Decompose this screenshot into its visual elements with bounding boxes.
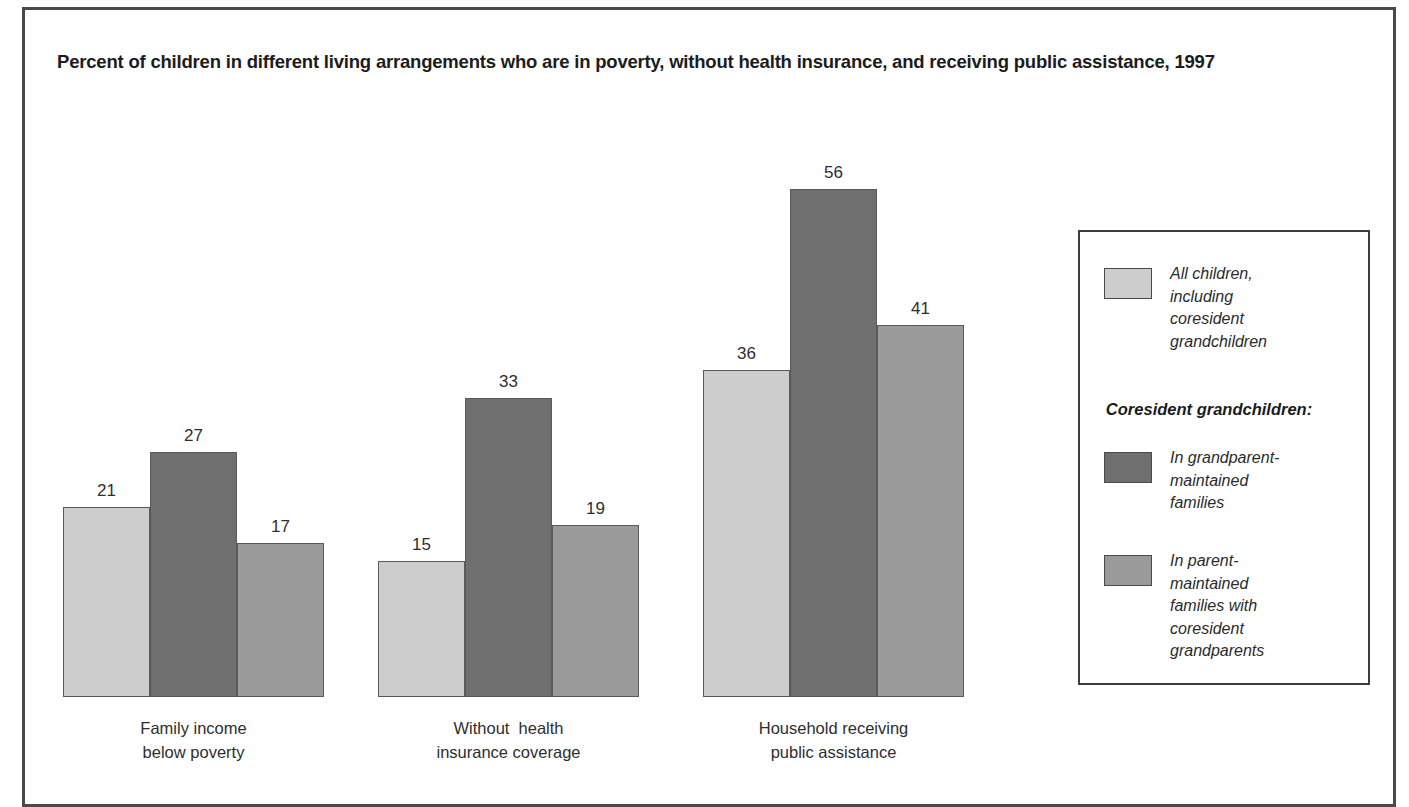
bar-value-label: 36 bbox=[703, 344, 790, 364]
legend-swatch bbox=[1104, 452, 1152, 483]
legend-swatch bbox=[1104, 268, 1152, 299]
chart-legend: Coresident grandchildren: All children, … bbox=[1078, 230, 1370, 685]
bar bbox=[703, 370, 790, 697]
bar-group: 365641Household receiving public assista… bbox=[0, 0, 1060, 772]
legend-subheading: Coresident grandchildren: bbox=[1094, 398, 1324, 421]
bar bbox=[877, 325, 964, 697]
bar-value-label: 41 bbox=[877, 299, 964, 319]
category-label: Household receiving public assistance bbox=[703, 716, 964, 764]
legend-swatch bbox=[1104, 555, 1152, 586]
bar-value-label: 56 bbox=[790, 163, 877, 183]
legend-label: All children, including coresident grand… bbox=[1170, 263, 1350, 353]
legend-label: In parent- maintained families with core… bbox=[1170, 550, 1350, 663]
legend-label: In grandparent- maintained families bbox=[1170, 447, 1350, 515]
plot-area: 212717Family income below poverty153319W… bbox=[0, 0, 1060, 772]
bar bbox=[790, 189, 877, 697]
